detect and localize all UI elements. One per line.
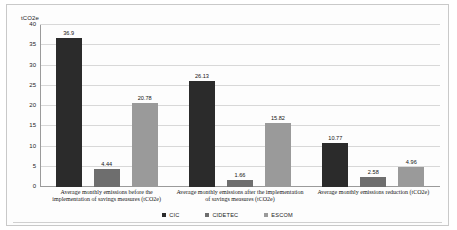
bar-value-label: 1.66 (235, 172, 246, 178)
bar-group: 36.94.4420.78 (40, 25, 173, 187)
legend-divider (13, 222, 442, 223)
legend-item-cic[interactable]: CIC (162, 212, 179, 218)
bar-escom[interactable]: 4.96 (398, 167, 424, 187)
legend-item-escom[interactable]: ESCOM (264, 212, 293, 218)
bar-cidetec[interactable]: 2.58 (360, 177, 386, 187)
legend-label: ESCOM (271, 212, 293, 218)
bar-cic[interactable]: 36.9 (56, 38, 82, 187)
legend-swatch-icon (162, 213, 166, 217)
bar-groups: 36.94.4420.7826.131.6615.8210.772.584.96 (40, 25, 440, 187)
bar-slot: 36.9 (56, 25, 82, 187)
bar-slot: 4.44 (94, 25, 120, 187)
y-tick-label: 30 (29, 62, 36, 68)
bar-slot: 20.78 (132, 25, 158, 187)
bar-escom[interactable]: 20.78 (132, 103, 158, 187)
y-tick-label: 40 (29, 21, 36, 27)
y-tick-label: 20 (29, 102, 36, 108)
bar-slot: 10.77 (322, 25, 348, 187)
chart-card: tCO2e 4035302520151050 36.94.4420.7826.1… (6, 4, 449, 226)
bar-cidetec[interactable]: 4.44 (94, 169, 120, 187)
chart-legend: CICCIDETECESCOM (7, 210, 448, 220)
legend-label: CIDETEC (212, 212, 238, 218)
bar-cic[interactable]: 26.13 (189, 81, 215, 187)
bar-value-label: 20.78 (138, 95, 152, 101)
category-label: Average monthly emissions reduction (tCO… (307, 189, 440, 211)
bar-value-label: 10.77 (328, 135, 342, 141)
bar-value-label: 36.9 (63, 30, 74, 36)
category-axis-labels: Average monthly emissions before the imp… (40, 189, 440, 211)
bar-slot: 2.58 (360, 25, 386, 187)
bar-slot: 1.66 (227, 25, 253, 187)
bar-group: 10.772.584.96 (307, 25, 440, 187)
bar-value-label: 15.82 (271, 115, 285, 121)
bar-slot: 15.82 (265, 25, 291, 187)
bar-slot: 4.96 (398, 25, 424, 187)
y-tick-label: 0 (33, 183, 36, 189)
y-tick-label: 5 (33, 163, 36, 169)
bar-cidetec[interactable]: 1.66 (227, 180, 253, 187)
legend-swatch-icon (264, 213, 268, 217)
category-label: Average monthly emissions before the imp… (40, 189, 173, 211)
bar-value-label: 4.44 (101, 161, 112, 167)
legend-item-cidetec[interactable]: CIDETEC (205, 212, 238, 218)
bar-value-label: 2.58 (368, 169, 379, 175)
y-tick-label: 10 (29, 143, 36, 149)
y-tick-label: 15 (29, 122, 36, 128)
bar-cic[interactable]: 10.77 (322, 143, 348, 187)
legend-swatch-icon (205, 213, 209, 217)
y-tick-label: 35 (29, 41, 36, 47)
category-label: Average monthly emissions after the impl… (173, 189, 306, 211)
bar-value-label: 26.13 (195, 73, 209, 79)
legend-label: CIC (169, 212, 179, 218)
bar-group: 26.131.6615.82 (173, 25, 306, 187)
bar-slot: 26.13 (189, 25, 215, 187)
plot-area: 4035302520151050 36.94.4420.7826.131.661… (40, 25, 440, 187)
bar-value-label: 4.96 (406, 159, 417, 165)
y-tick-label: 25 (29, 82, 36, 88)
bar-escom[interactable]: 15.82 (265, 123, 291, 187)
